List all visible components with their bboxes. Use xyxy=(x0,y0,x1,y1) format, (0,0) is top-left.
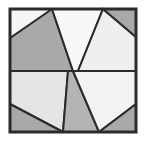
figure-root xyxy=(0,0,146,141)
geometric-tiling-figure xyxy=(0,0,146,141)
